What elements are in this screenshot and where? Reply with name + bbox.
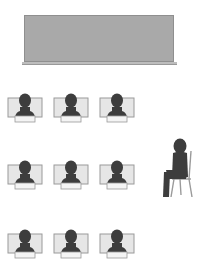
student-monitor-icon bbox=[53, 229, 89, 259]
seated-person-icon bbox=[160, 137, 196, 199]
student-monitor-icon bbox=[99, 93, 135, 123]
student-at-monitor bbox=[53, 229, 89, 259]
student-at-monitor bbox=[53, 93, 89, 123]
teacher-figure bbox=[160, 137, 196, 199]
student-monitor-icon bbox=[53, 93, 89, 123]
student-monitor-icon bbox=[7, 160, 43, 190]
student-monitor-icon bbox=[99, 229, 135, 259]
whiteboard bbox=[24, 15, 174, 62]
student-monitor-icon bbox=[7, 93, 43, 123]
student-at-monitor bbox=[99, 93, 135, 123]
student-monitor-icon bbox=[53, 160, 89, 190]
student-at-monitor bbox=[7, 229, 43, 259]
student-at-monitor bbox=[53, 160, 89, 190]
student-monitor-icon bbox=[7, 229, 43, 259]
student-monitor-icon bbox=[99, 160, 135, 190]
student-at-monitor bbox=[7, 93, 43, 123]
student-at-monitor bbox=[99, 160, 135, 190]
student-at-monitor bbox=[7, 160, 43, 190]
board-shelf bbox=[22, 62, 177, 65]
student-at-monitor bbox=[99, 229, 135, 259]
